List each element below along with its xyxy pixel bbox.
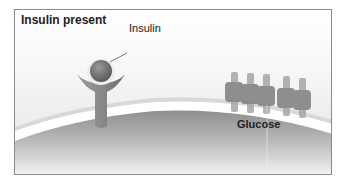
diagram-frame: Insulin present Insulin Glucose [14, 9, 332, 175]
insulin-label: Insulin [129, 22, 161, 34]
glucose-label: Glucose [237, 118, 280, 130]
diagram-title: Insulin present [21, 13, 106, 27]
cell-illustration [15, 10, 332, 175]
